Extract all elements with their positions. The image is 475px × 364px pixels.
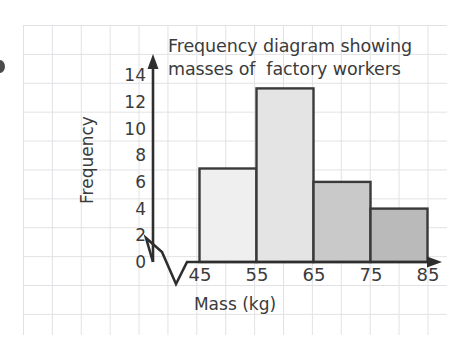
- worksheet-page: 0 2 4 6 8 10 12 14 45 55 65 75 85 Freque…: [0, 0, 475, 364]
- x-axis-label: Mass (kg): [194, 294, 276, 314]
- y-tick-14: 14: [112, 65, 146, 85]
- bar-45-55: [200, 169, 257, 263]
- bar-55-65: [257, 88, 314, 262]
- x-tick-65: 65: [303, 264, 326, 285]
- y-axis-arrow-icon: [148, 54, 159, 69]
- bar-65-75: [314, 182, 371, 262]
- y-tick-0: 0: [112, 252, 146, 272]
- x-tick-55: 55: [246, 264, 269, 285]
- y-tick-4: 4: [112, 199, 146, 219]
- x-tick-85: 85: [417, 264, 440, 285]
- y-tick-12: 12: [112, 92, 146, 112]
- y-tick-2: 2: [112, 225, 146, 245]
- chart-title-line-1: Frequency diagram showing: [168, 36, 412, 56]
- chart-title-line-2: masses of factory workers: [168, 59, 401, 79]
- bar-75-85: [371, 209, 428, 262]
- y-tick-10: 10: [112, 119, 146, 139]
- y-axis-label: Frequency: [77, 70, 97, 250]
- y-axis-tick-labels: 0 2 4 6 8 10 12 14: [112, 0, 146, 364]
- x-tick-75: 75: [360, 264, 383, 285]
- axis-break-zigzag-icon: [146, 238, 187, 284]
- x-tick-45: 45: [189, 264, 212, 285]
- y-tick-8: 8: [112, 145, 146, 165]
- bar-group: [200, 88, 428, 262]
- y-tick-6: 6: [112, 172, 146, 192]
